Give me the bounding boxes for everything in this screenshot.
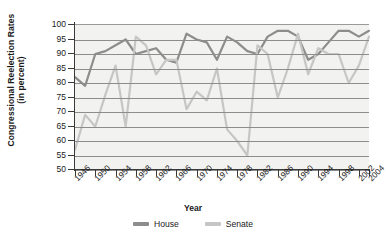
y-tick-label: 55 — [57, 150, 66, 160]
reelection-rates-chart: Congressional Reelection Rates (in perce… — [0, 0, 386, 239]
y-axis-ticks: 50556065707580859095100 — [0, 22, 74, 171]
y-axis-line — [74, 22, 75, 171]
x-axis-title: Year — [0, 203, 386, 213]
y-tick-label: 90 — [57, 48, 66, 58]
y-tick-label: 75 — [57, 92, 66, 102]
chart-legend: HouseSenate — [0, 219, 386, 229]
legend-item-house[interactable]: House — [133, 219, 179, 229]
legend-label: House — [154, 219, 179, 229]
gridline — [75, 156, 369, 157]
gridline — [75, 112, 369, 113]
gridline — [75, 83, 369, 84]
legend-item-senate[interactable]: Senate — [205, 219, 253, 229]
y-tick-label: 60 — [57, 135, 66, 145]
gridline — [75, 98, 369, 99]
plot-area — [75, 24, 369, 170]
legend-swatch-icon — [205, 222, 221, 226]
gridline — [75, 127, 369, 128]
series-line-senate — [75, 34, 369, 156]
gridline — [75, 40, 369, 41]
gridline — [75, 69, 369, 70]
y-tick-label: 85 — [57, 63, 66, 73]
y-tick-label: 80 — [57, 77, 66, 87]
y-tick-label: 95 — [57, 34, 66, 44]
gridline — [75, 54, 369, 55]
y-tick-label: 70 — [57, 106, 66, 116]
legend-swatch-icon — [133, 222, 149, 226]
y-tick-label: 100 — [52, 19, 66, 29]
legend-label: Senate — [226, 219, 253, 229]
gridline — [75, 141, 369, 142]
y-tick-label: 65 — [57, 121, 66, 131]
